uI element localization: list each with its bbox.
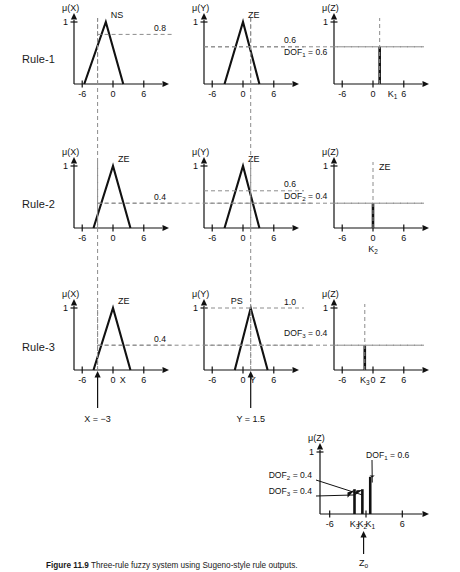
rule3-chart2-membership-triangle — [235, 308, 268, 370]
aggregate-annotation-dof1: DOF1 = 0.6 — [366, 450, 410, 461]
rule2-chart3-y-tick-label: 1 — [323, 161, 328, 171]
rule2-chart3-axis-label: μ(Z) — [322, 147, 339, 157]
rule2-chart1-membership-triangle — [94, 166, 131, 228]
rule3-chart1-y-tick-label: 1 — [63, 303, 68, 313]
rule3-chart3-x-axis-arrow — [423, 367, 430, 373]
rule2-chart2-axis-label: μ(Y) — [192, 147, 209, 157]
rule3-chart3-y-axis-arrow — [331, 299, 337, 306]
rule1-chart1-y-tick-label: 1 — [63, 17, 68, 27]
rule2-chart3-x-tick-label: 0 — [370, 233, 375, 243]
input-y-caption: Y = 1.5 — [236, 414, 265, 424]
aggregate-annotation-dof2: DOF2 = 0.4 — [269, 470, 313, 481]
aggregate-output-arrow-head — [360, 531, 366, 538]
rule1-chart2-axis-label: μ(Y) — [192, 3, 209, 13]
rule2-chart2-level-label: 0.6 — [284, 179, 296, 189]
rule2-chart2-y-tick-label: 1 — [193, 161, 198, 171]
rule1-chart2-y-axis-arrow — [201, 13, 207, 20]
rule-label-1: Rule-1 — [22, 53, 55, 65]
rule1-chart2-set-label: ZE — [248, 10, 260, 20]
rule3-chart3-x-tick-label: 6 — [401, 375, 406, 385]
aggregate-x-axis-arrow — [423, 511, 430, 517]
rule3-chart2-x-tick-label: 0 — [240, 375, 245, 385]
rule2-chart1-y-axis-arrow — [71, 157, 77, 164]
rule1-chart1-y-axis-arrow — [71, 13, 77, 20]
rule1-chart2-x-axis-arrow — [293, 81, 300, 87]
rule2-chart3-x-tick-label: -6 — [338, 233, 346, 243]
input-x-caption: X = −3 — [84, 414, 111, 424]
rule3-chart2-axis-label: μ(Y) — [192, 289, 209, 299]
rule1-chart3-x-tick-label: 6 — [401, 89, 406, 99]
rule1-chart2-y-tick-label: 1 — [193, 17, 198, 27]
figure-caption-label: Figure 11.9 — [46, 561, 89, 570]
rule2-chart2-x-axis-arrow — [293, 225, 300, 231]
rule2-chart1-x-tick-label: 0 — [110, 233, 115, 243]
rule1-chart1-x-tick-label: 6 — [141, 89, 146, 99]
figure-caption-text: Three-rule fuzzy system using Sugeno-sty… — [91, 561, 298, 570]
rule1-chart1-axis-label: μ(X) — [62, 3, 79, 13]
rule2-chart1-axis-label: μ(X) — [62, 147, 79, 157]
rule2-chart1-level-label: 0.4 — [154, 192, 166, 202]
rule3-chart1-axis-var-label: X — [120, 375, 126, 385]
rule3-chart1-x-tick-label: 6 — [141, 375, 146, 385]
rule1-chart2-dof-label: DOF1 = 0.6 — [284, 47, 328, 58]
rule2-chart2-dof-label: DOF2 = 0.4 — [284, 191, 328, 202]
rule-label-2: Rule-2 — [22, 198, 55, 210]
aggregate-leader-dof2 — [316, 480, 362, 495]
rule3-chart2-x-axis-arrow — [293, 367, 300, 373]
rule3-chart1-level-label: 0.4 — [154, 334, 166, 344]
rule2-chart2-membership-triangle — [225, 166, 260, 228]
rule3-chart1-y-axis-arrow — [71, 299, 77, 306]
rule3-chart1-x-tick-label: -6 — [78, 375, 86, 385]
aggregate-y-tick-label: 1 — [309, 447, 314, 457]
rule2-chart1-y-tick-label: 1 — [63, 161, 68, 171]
fuzzy-inference-diagram: 1-606μ(X)NS0.81-606μ(Y)ZE0.6DOF1 = 0.61-… — [0, 0, 460, 572]
rule3-chart1-membership-triangle — [94, 308, 131, 370]
rule2-chart3-x-axis-arrow — [423, 225, 430, 231]
rule3-chart2-set-label: PS — [231, 296, 243, 306]
aggregate-spike-label-K1: K1 — [365, 519, 375, 530]
rule3-chart2-level-label: 1.0 — [284, 297, 296, 307]
aggregate-x-tick-label: -6 — [326, 519, 334, 529]
rule2-chart2-x-tick-label: 6 — [271, 233, 276, 243]
rule2-chart3-x-tick-label: 6 — [401, 233, 406, 243]
rule2-chart2-y-axis-arrow — [201, 157, 207, 164]
rule3-chart1-axis-label: μ(X) — [62, 289, 79, 299]
aggregate-x-tick-label-right: 6 — [400, 519, 405, 529]
rule1-chart3-x-tick-label: -6 — [338, 89, 346, 99]
rule1-chart3-x-tick-label: 0 — [370, 89, 375, 99]
figure-canvas: 1-606μ(X)NS0.81-606μ(Y)ZE0.6DOF1 = 0.61-… — [0, 0, 460, 572]
rule2-chart1-set-label: ZE — [118, 154, 130, 164]
aggregate-y-axis-arrow — [317, 443, 323, 450]
rule2-chart2-set-label: ZE — [248, 154, 260, 164]
rule1-chart2-x-tick-label: -6 — [208, 89, 216, 99]
rule1-chart2-x-tick-label: 6 — [271, 89, 276, 99]
rule2-chart1-x-axis-arrow — [163, 225, 170, 231]
rule1-chart1-level-label: 0.8 — [154, 23, 166, 33]
rule1-chart3-y-tick-label: 1 — [323, 17, 328, 27]
rule2-chart3-y-axis-arrow — [331, 157, 337, 164]
rule1-chart2-x-tick-label: 0 — [240, 89, 245, 99]
rule2-chart2-x-tick-label: -6 — [208, 233, 216, 243]
input-x-arrow-head — [95, 371, 101, 378]
rule3-chart2-x-tick-label: -6 — [208, 375, 216, 385]
rule1-chart1-set-label: NS — [111, 10, 124, 20]
rule3-chart1-x-axis-arrow — [163, 367, 170, 373]
aggregate-axis-label: μ(Z) — [308, 433, 325, 443]
rule2-chart2-x-tick-label: 0 — [240, 233, 245, 243]
rule3-chart3-singleton-label: K3 — [360, 375, 370, 386]
rule3-chart3-x-tick-label: -6 — [338, 375, 346, 385]
rule1-chart3-singleton-label: K1 — [388, 89, 398, 100]
rule3-chart3-x-tick-label: 0 — [370, 375, 375, 385]
rule1-chart1-x-tick-label: 0 — [110, 89, 115, 99]
rule1-chart2-level-label: 0.6 — [284, 35, 296, 45]
rule3-chart2-dof-label: DOF3 = 0.4 — [284, 328, 328, 339]
rule1-chart1-membership-triangle — [84, 22, 123, 84]
rule3-chart3-axis-var-label: Z — [380, 375, 386, 385]
rule2-chart1-x-tick-label: -6 — [78, 233, 86, 243]
rule3-chart1-set-label: ZE — [118, 296, 130, 306]
rule1-chart2-membership-triangle — [225, 22, 260, 84]
rule1-chart3-axis-label: μ(Z) — [322, 3, 339, 13]
rule3-chart2-y-tick-label: 1 — [193, 303, 198, 313]
rule3-chart3-axis-label: μ(Z) — [322, 289, 339, 299]
figure-caption: Figure 11.9 Three-rule fuzzy system usin… — [46, 561, 446, 571]
